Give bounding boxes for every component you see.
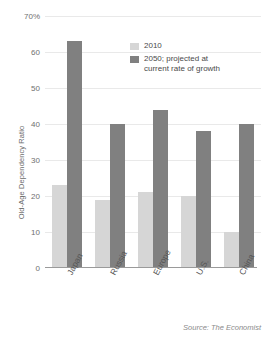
y-axis-tick-label: 10 — [31, 228, 40, 237]
legend-item[interactable]: 2010 — [130, 41, 220, 51]
source-attribution: Source: The Economist — [183, 323, 261, 332]
bar-group — [88, 16, 131, 268]
legend-item[interactable]: 2050; projected at current rate of growt… — [130, 54, 220, 74]
y-axis-tick-label: 60 — [31, 48, 40, 57]
bar — [181, 196, 196, 268]
bar — [224, 232, 239, 268]
x-axis-tick-labels: JapanRussiaEuropeU.S.China — [45, 272, 261, 322]
bar — [95, 200, 110, 268]
bar — [138, 192, 153, 268]
bar — [196, 131, 211, 268]
y-axis-tick-label: 50 — [31, 84, 40, 93]
legend-swatch-icon — [130, 43, 139, 50]
bar — [67, 41, 82, 268]
y-axis-tick-label: 70% — [24, 12, 40, 21]
x-axis-tick-cell: U.S. — [175, 272, 218, 322]
bar — [52, 185, 67, 268]
x-axis-tick-cell: China — [218, 272, 261, 322]
old-age-dependency-ratio-chart: Old-Age Dependency Ratio 70%605040302010… — [0, 0, 269, 350]
y-axis-tick-label: 40 — [31, 120, 40, 129]
bar — [153, 110, 168, 268]
legend-label: 2010 — [144, 41, 162, 51]
x-axis-tick-cell: Europe — [131, 272, 174, 322]
legend-swatch-icon — [130, 56, 139, 63]
y-axis-tick-label: 30 — [31, 156, 40, 165]
bar-group — [218, 16, 261, 268]
bar — [239, 124, 254, 268]
bar — [110, 124, 125, 268]
chart-legend: 20102050; projected at current rate of g… — [130, 41, 220, 77]
x-axis-tick-cell: Japan — [45, 272, 88, 322]
legend-label: 2050; projected at current rate of growt… — [144, 54, 220, 74]
y-axis-tick-label: 20 — [31, 192, 40, 201]
x-axis-tick-cell: Russia — [88, 272, 131, 322]
y-axis-title: Old-Age Dependency Ratio — [17, 98, 26, 248]
y-axis-tick-label: 0 — [36, 264, 40, 273]
bar-group — [45, 16, 88, 268]
